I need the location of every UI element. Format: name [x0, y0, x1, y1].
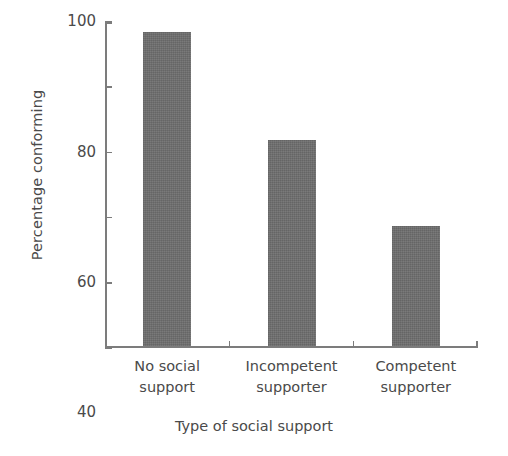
bar-3 [392, 226, 440, 346]
y-tick-label-80: 80 [77, 142, 96, 160]
x-category-label-2-line1: Incompetent [245, 358, 337, 374]
x-category-label-1-line2: support [105, 377, 229, 398]
bar-2 [268, 140, 316, 346]
x-category-label-3-line1: Competent [375, 358, 456, 374]
x-category-label-1-line1: No social [134, 358, 200, 374]
x-category-label-2: Incompetentsupporter [229, 356, 353, 397]
x-category-label-3: Competentsupporter [354, 356, 478, 397]
bar-chart-figure: Percentage conforming 020406080100 No so… [0, 0, 508, 456]
y-tick-label-100: 100 [67, 12, 96, 30]
x-tick-separator-2 [353, 341, 355, 348]
y-tick-40: 40 [105, 217, 112, 219]
bar-1 [143, 32, 191, 346]
y-tick-0: 0 [105, 347, 112, 349]
y-tick-80: 80 [105, 86, 112, 88]
x-category-label-3-line2: supporter [354, 377, 478, 398]
y-tick-60: 60 [105, 152, 112, 154]
x-tick-separator-1 [229, 341, 231, 348]
y-axis-title: Percentage conforming [16, 0, 58, 350]
y-tick-label-60: 60 [77, 273, 96, 291]
x-category-label-1: No socialsupport [105, 356, 229, 397]
x-category-label-2-line2: supporter [229, 377, 353, 398]
y-tick-100: 100 [105, 21, 112, 23]
x-axis-right-cap-icon [476, 341, 478, 348]
x-axis-spine [105, 346, 478, 348]
x-axis-title: Type of social support [0, 418, 508, 434]
y-tick-20: 20 [105, 282, 112, 284]
y-axis-spine [105, 22, 107, 348]
plot-area: 020406080100 [105, 22, 478, 348]
